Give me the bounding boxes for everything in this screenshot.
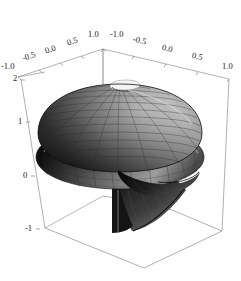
surface-plot-figure: -1.0 -0.5 0.0 0.5 1.0 -1.0 -0.5 0.0 0.5 … (0, 0, 241, 281)
x-tick-label-neg-1-0: -1.0 (1, 62, 14, 71)
x-tick-label-1-0: 1.0 (88, 30, 99, 39)
plot-canvas (0, 0, 241, 281)
z-tick-label-2: 2 (13, 74, 17, 83)
z-tick-label-neg-1: -1 (25, 224, 32, 233)
y-tick-label-1-0: 1.0 (222, 62, 233, 71)
y-tick-label-neg-1-0: -1.0 (110, 30, 123, 39)
z-tick-label-0: 0 (23, 171, 27, 180)
y-tick-label-0-0: 0.0 (161, 43, 173, 54)
z-tick-label-1: 1 (18, 117, 22, 126)
y-tick-label-0-5: 0.5 (191, 51, 203, 62)
surface-dome (38, 80, 202, 174)
